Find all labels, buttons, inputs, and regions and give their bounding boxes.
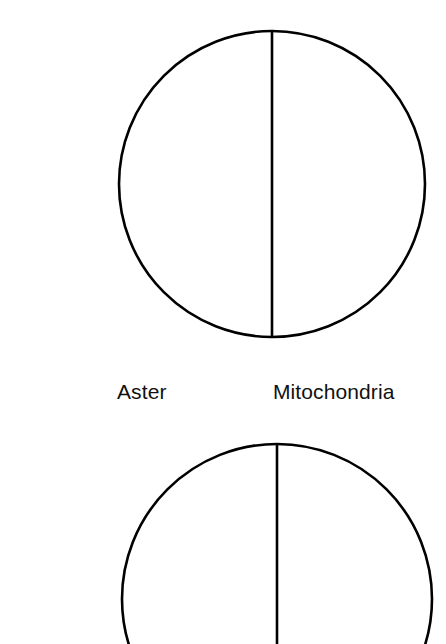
label-aster: Aster [117, 381, 167, 402]
diagram-page: Aster Mitochondria [0, 0, 446, 644]
figure-background [0, 0, 446, 644]
label-mitochondria: Mitochondria [273, 381, 394, 402]
cell-diagram-figure [0, 0, 446, 644]
